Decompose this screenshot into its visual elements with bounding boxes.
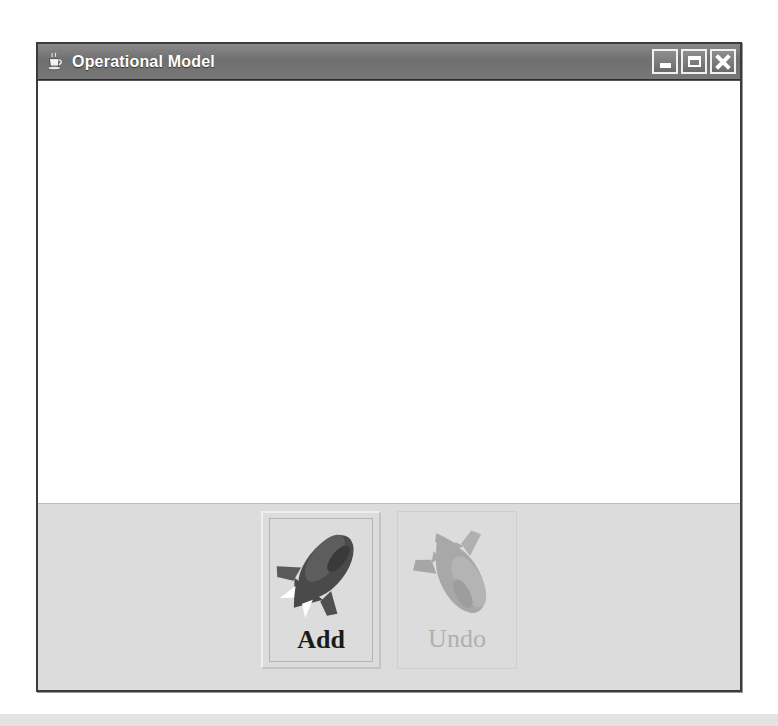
close-button[interactable] bbox=[710, 49, 736, 74]
rocket-up-icon bbox=[273, 521, 369, 625]
model-canvas[interactable] bbox=[38, 80, 740, 504]
window-title: Operational Model bbox=[72, 53, 215, 71]
java-coffee-cup-icon bbox=[46, 52, 64, 72]
minimize-icon bbox=[660, 63, 671, 68]
undo-button-label: Undo bbox=[428, 626, 486, 652]
page-edge-band bbox=[0, 714, 778, 726]
undo-button[interactable]: Undo bbox=[397, 511, 517, 669]
title-bar: Operational Model bbox=[38, 44, 740, 80]
window-controls bbox=[652, 49, 736, 74]
rocket-down-icon bbox=[409, 520, 505, 624]
maximize-icon bbox=[688, 56, 701, 67]
add-button-label: Add bbox=[297, 627, 345, 653]
toolbar-panel: Add bbox=[38, 505, 740, 690]
maximize-button[interactable] bbox=[681, 49, 707, 74]
application-window: Operational Model bbox=[36, 42, 742, 692]
close-icon bbox=[715, 54, 731, 70]
add-button[interactable]: Add bbox=[261, 511, 381, 669]
scanned-page: Operational Model bbox=[0, 0, 778, 726]
minimize-button[interactable] bbox=[652, 49, 678, 74]
